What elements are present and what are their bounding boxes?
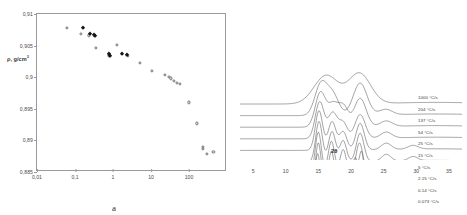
data-point-open-circle <box>115 43 118 46</box>
x-tick-label-two-theta: 15 <box>316 168 322 174</box>
y-tick-label: 0,895 <box>20 106 33 112</box>
y-tick-label: 0,89 <box>23 137 33 143</box>
xrd-curve-label: 137 °C/s <box>418 118 435 123</box>
x-tick-label-two-theta: 10 <box>283 168 289 174</box>
y-axis-label-density: ρ, g/cm3 <box>7 55 29 62</box>
xrd-curve-label: 204 °C/s <box>418 107 435 112</box>
x-tick-label-two-theta: 25 <box>381 168 387 174</box>
x-tick-label-two-theta: 30 <box>413 168 419 174</box>
x-tick-label: 0,01 <box>32 174 42 180</box>
x-tick-label: 0,1 <box>71 174 78 180</box>
xrd-curve-label: 54 °C/s <box>418 130 433 135</box>
x-tick-label: 1 <box>112 174 115 180</box>
y-tick-label: 0,885 <box>20 169 33 175</box>
panel-caption-a: a <box>112 203 116 213</box>
y-tick-label: 0,91 <box>23 11 33 17</box>
xrd-curves <box>240 8 462 160</box>
data-point-open-circle <box>66 26 69 29</box>
data-point-open-circle <box>163 74 166 77</box>
data-point-open-circle <box>212 150 215 153</box>
data-point-open-circle <box>178 83 181 86</box>
x-axis-ticks-two-theta: 5101520253035 <box>240 162 462 182</box>
x-tick-label: 100 <box>185 174 194 180</box>
x-tick-label-two-theta: 20 <box>348 168 354 174</box>
data-point-open-circle <box>80 33 83 36</box>
figure-root: ρ, g/cm3 dT/dt@70°C, °C/s 0,8850,890,895… <box>0 0 467 215</box>
data-point-filled-diamond <box>80 25 85 30</box>
data-point-open-circle <box>202 148 205 151</box>
data-point-open-circle <box>187 101 190 104</box>
x-axis-label-two-theta: 2θ <box>331 148 337 154</box>
data-point-filled-diamond <box>93 34 98 39</box>
xrd-curve-label: 25 °C/s <box>418 141 433 146</box>
panel-b: 1000 °C/s204 °C/s137 °C/s54 °C/s25 °C/s1… <box>235 0 467 215</box>
x-tick-label-two-theta: 5 <box>252 168 255 174</box>
panel-a: ρ, g/cm3 dT/dt@70°C, °C/s 0,8850,890,895… <box>0 0 240 215</box>
data-point-open-circle <box>150 69 153 72</box>
scatter-plot-density: 0,8850,890,8950,90,9050,91 0,010,1110100 <box>36 13 226 171</box>
xrd-waterfall-plot: 1000 °C/s204 °C/s137 °C/s54 °C/s25 °C/s1… <box>240 8 462 160</box>
y-tick-label: 0,905 <box>20 43 33 49</box>
data-point-filled-diamond <box>108 53 113 58</box>
xrd-curve-label: 0.14 °C/s <box>418 188 437 193</box>
x-tick-label-two-theta: 35 <box>446 168 452 174</box>
data-point-open-circle <box>195 122 198 125</box>
y-tick-label: 0,9 <box>26 74 33 80</box>
data-point-open-circle <box>94 47 97 50</box>
x-tick-label: 10 <box>148 174 154 180</box>
xrd-curve-label: 0.073 °C/s <box>418 199 439 204</box>
xrd-curve-label: 1000 °C/s <box>418 95 438 100</box>
data-point-open-circle <box>138 62 141 65</box>
xrd-curve-label: 15 °C/s <box>418 153 433 158</box>
data-point-open-circle <box>205 153 208 156</box>
